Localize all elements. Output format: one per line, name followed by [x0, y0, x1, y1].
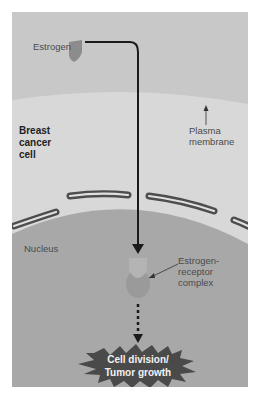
- cell-label-line3: cell: [19, 149, 36, 161]
- estrogen-label: Estrogen: [33, 41, 71, 52]
- complex-label-line3: complex: [178, 277, 213, 288]
- complex-label-line1: Estrogen-: [178, 255, 219, 266]
- nucleus-label: Nucleus: [24, 243, 58, 254]
- cell-label-line2: cancer: [19, 137, 51, 149]
- plasma-label-line2: membrane: [189, 136, 234, 147]
- outcome-label-line1: Cell division/: [78, 354, 198, 366]
- estrogen-pathway-diagram: Estrogen Breast cancer cell Plasma membr…: [12, 12, 248, 387]
- plasma-label-line1: Plasma: [189, 125, 221, 136]
- envelope-segment: [70, 194, 128, 196]
- complex-label-line2: receptor: [178, 266, 213, 277]
- outcome-label-line2: Tumor growth: [78, 367, 198, 379]
- diagram-canvas: [12, 12, 248, 387]
- cell-label-line1: Breast: [19, 125, 50, 137]
